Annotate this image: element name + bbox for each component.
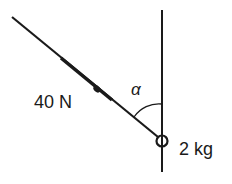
angle-arc [134, 104, 162, 117]
angle-label: α [131, 80, 142, 99]
mass-label: 2 kg [179, 139, 213, 159]
force-label: 40 N [34, 92, 72, 112]
force-diagram: 40 N α 2 kg [0, 0, 232, 184]
